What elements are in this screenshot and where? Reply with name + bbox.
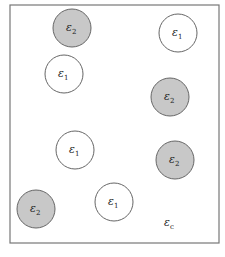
inclusion-eps2: ε2	[17, 190, 55, 228]
inclusion-eps1: ε1	[45, 55, 83, 93]
inclusion-eps2: ε2	[53, 9, 91, 47]
inclusion-eps1: ε1	[56, 131, 94, 169]
inclusion-diagram: ε2ε1ε1ε2ε1ε2ε2ε1 εc	[0, 0, 225, 257]
inclusion-eps1: ε1	[95, 183, 133, 221]
inclusion-eps2: ε2	[156, 141, 194, 179]
inclusion-eps1: ε1	[159, 14, 197, 52]
inclusion-eps2: ε2	[151, 78, 189, 116]
